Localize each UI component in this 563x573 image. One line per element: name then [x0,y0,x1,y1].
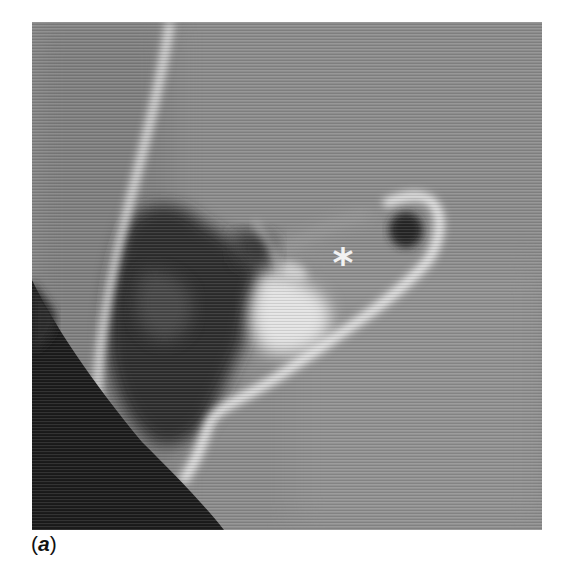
scan-image: * [32,22,542,530]
panel-label-letter: a [38,532,50,555]
panel-label-open: ( [31,532,38,555]
asterisk-marker: * [333,243,354,283]
panel-label-close: ) [50,532,57,555]
scan-graphic [32,22,542,530]
panel-label: (a) [31,533,57,554]
